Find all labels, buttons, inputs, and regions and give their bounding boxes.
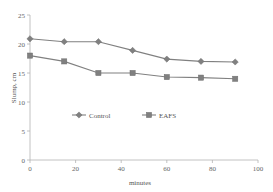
y-axis-title: Slump, cm [10, 72, 18, 103]
series-eafs [27, 53, 237, 81]
legend-label: Control [89, 112, 110, 120]
data-point [164, 56, 170, 62]
chart-legend: ControlEAFS [72, 112, 176, 120]
data-point [61, 39, 67, 45]
data-point [164, 74, 169, 79]
slump-vs-time-chart: 0510152025 020406080100 ControlEAFS minu… [0, 0, 273, 192]
data-series-group [27, 36, 238, 82]
y-tick-label: 25 [18, 12, 26, 20]
data-point [130, 47, 136, 53]
x-tick-label: 20 [72, 165, 80, 173]
legend-marker [146, 112, 151, 117]
legend-item-control: Control [72, 112, 110, 120]
chart-canvas: 0510152025 020406080100 ControlEAFS minu… [0, 0, 273, 192]
x-axis-title: minutes [129, 179, 151, 187]
data-point [96, 70, 101, 75]
y-tick-label: 0 [22, 157, 26, 165]
y-tick-label: 5 [22, 128, 26, 136]
legend-label: EAFS [159, 112, 176, 120]
legend-marker [76, 112, 82, 118]
data-point [27, 53, 32, 58]
x-tick-label: 100 [253, 165, 264, 173]
data-point [130, 70, 135, 75]
y-tick-label: 10 [18, 99, 26, 107]
data-point [27, 36, 33, 42]
x-tick-label: 80 [209, 165, 217, 173]
data-point [198, 75, 203, 80]
x-tick-label: 0 [28, 165, 32, 173]
legend-item-eafs: EAFS [142, 112, 176, 120]
x-tick-label: 60 [163, 165, 171, 173]
x-tick-label: 40 [118, 165, 126, 173]
y-tick-label: 20 [18, 41, 26, 49]
data-point [95, 39, 101, 45]
y-tick-label: 15 [18, 70, 26, 78]
data-point [198, 58, 204, 64]
data-point [233, 76, 238, 81]
data-point [232, 59, 238, 65]
x-axis: 020406080100 [28, 160, 264, 173]
data-point [62, 59, 67, 64]
y-axis: 0510152025 [18, 12, 30, 165]
